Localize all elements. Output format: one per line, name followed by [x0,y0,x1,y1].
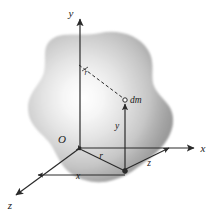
y-axis-label: y [68,7,74,19]
physics-diagram: y x z O dm y r x z r [0,0,212,213]
dm-label: dm [130,95,142,105]
origin-point-marker [79,147,82,150]
origin-label: O [58,133,66,145]
r-upper-label: r [85,68,88,77]
z-axis-label: z [7,199,13,211]
projection-point-marker [123,169,128,174]
figure-container: y x z O dm y r x z r [0,0,212,213]
z-segment-label: z [146,158,151,168]
r-segment-label: r [99,151,103,161]
x-segment-label: x [75,171,81,181]
dm-point-marker [123,98,127,102]
y-segment-label: y [114,121,120,131]
x-axis-label: x [200,142,206,154]
